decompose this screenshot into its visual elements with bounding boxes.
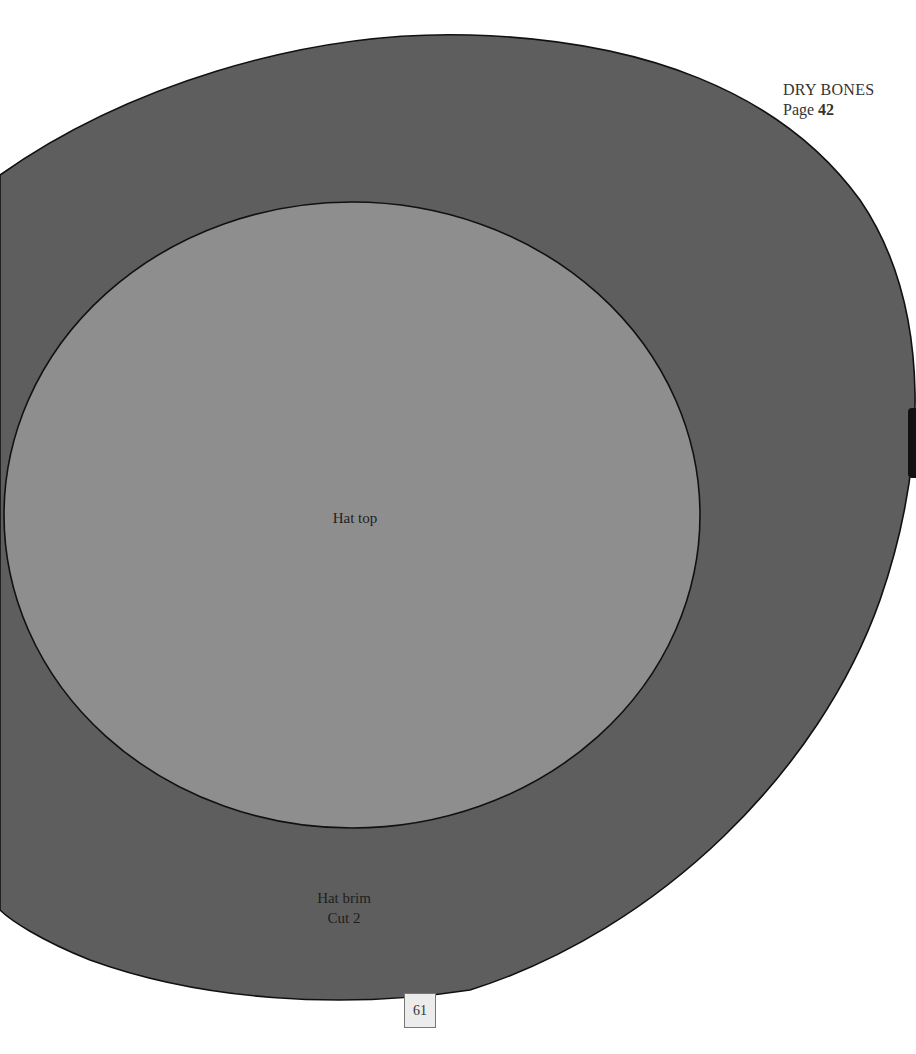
page-reference-number: 42 <box>818 101 834 118</box>
page-prefix: Page <box>783 101 814 118</box>
page-number-box: 61 <box>404 993 436 1028</box>
hat-brim-cut-instruction: Cut 2 <box>284 910 404 927</box>
hat-pattern-diagram <box>0 0 916 1054</box>
book-title: DRY BONES <box>783 80 874 100</box>
hat-brim-label: Hat brim <box>284 890 404 907</box>
page-reference: Page 42 <box>783 100 874 120</box>
book-header: DRY BONES Page 42 <box>783 80 874 120</box>
page-edge-tab <box>908 408 916 478</box>
page-number: 61 <box>413 1003 427 1019</box>
hat-top-label: Hat top <box>300 510 410 527</box>
